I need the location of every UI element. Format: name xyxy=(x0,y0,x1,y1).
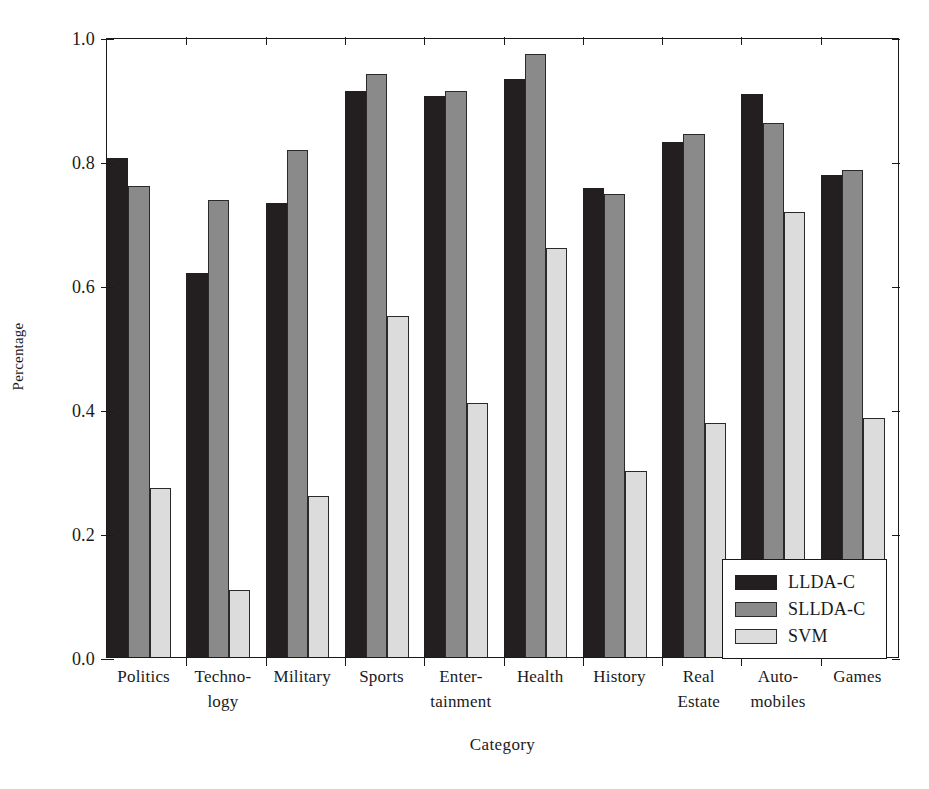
bar xyxy=(308,496,329,657)
bar xyxy=(662,142,683,657)
bar xyxy=(604,194,625,657)
bar xyxy=(287,150,308,657)
y-tick-mark xyxy=(101,535,114,536)
x-tick-label: Games xyxy=(797,664,917,689)
bar-group xyxy=(107,39,186,657)
y-axis-label: Percentage xyxy=(10,247,27,467)
bar xyxy=(525,54,546,657)
bar xyxy=(583,188,604,657)
y-tick-label: 1.0 xyxy=(72,29,95,50)
y-tick-label: 0.2 xyxy=(72,525,95,546)
bar xyxy=(424,96,445,657)
bar xyxy=(504,79,525,657)
bar xyxy=(387,316,408,657)
legend-item: LLDA-C xyxy=(723,569,886,596)
x-tick-mark-top xyxy=(821,37,822,45)
legend-item: SVM xyxy=(723,623,886,650)
bar xyxy=(445,91,466,657)
legend-label: LLDA-C xyxy=(788,572,855,593)
bar xyxy=(208,200,229,657)
legend-swatch xyxy=(735,602,777,617)
bar xyxy=(150,488,171,657)
x-tick-mark-top xyxy=(345,37,346,45)
bar xyxy=(345,91,366,657)
bar xyxy=(229,590,250,657)
bar xyxy=(546,248,567,657)
y-tick-mark-right xyxy=(892,659,900,660)
chart-legend: LLDA-CSLLDA-CSVM xyxy=(722,559,887,659)
x-tick-label-line: Games xyxy=(797,664,917,689)
bar-group xyxy=(186,39,265,657)
bar-group xyxy=(424,39,503,657)
y-tick-label: 0.6 xyxy=(72,277,95,298)
bar xyxy=(366,74,387,657)
bar xyxy=(625,471,646,657)
bar-group xyxy=(583,39,662,657)
legend-label: SVM xyxy=(788,626,828,647)
bar xyxy=(683,134,704,657)
y-tick-label: 0.4 xyxy=(72,401,95,422)
x-tick-mark-top xyxy=(266,37,267,45)
x-tick-label-line: tainment xyxy=(401,689,521,714)
bar xyxy=(107,158,128,657)
x-tick-mark-top xyxy=(186,37,187,45)
y-tick-mark-right xyxy=(892,535,900,536)
legend-swatch xyxy=(735,575,777,590)
x-tick-mark-top xyxy=(504,37,505,45)
bar xyxy=(467,403,488,657)
bar-chart-figure: Percentage 0.00.20.40.60.81.0 PoliticsTe… xyxy=(0,0,929,789)
y-tick-mark xyxy=(101,39,114,40)
bar xyxy=(186,273,207,657)
x-axis-label: Category xyxy=(106,735,899,755)
bar xyxy=(128,186,149,657)
bar-group xyxy=(266,39,345,657)
x-tick-mark-top xyxy=(741,37,742,45)
x-tick-label-line: mobiles xyxy=(718,689,838,714)
y-tick-mark xyxy=(101,287,114,288)
y-tick-mark xyxy=(101,659,114,660)
bar-group xyxy=(504,39,583,657)
bar xyxy=(266,203,287,657)
y-tick-mark-right xyxy=(892,411,900,412)
y-tick-label: 0.8 xyxy=(72,153,95,174)
x-tick-mark-top xyxy=(583,37,584,45)
legend-swatch xyxy=(735,629,777,644)
bar-group xyxy=(345,39,424,657)
x-tick-mark-top xyxy=(662,37,663,45)
y-tick-mark-right xyxy=(892,287,900,288)
x-tick-label-line: logy xyxy=(163,689,283,714)
legend-label: SLLDA-C xyxy=(788,599,865,620)
y-tick-mark-right xyxy=(892,163,900,164)
legend-item: SLLDA-C xyxy=(723,596,886,623)
y-tick-mark-right xyxy=(892,39,900,40)
x-tick-mark-top xyxy=(424,37,425,45)
y-tick-mark xyxy=(101,163,114,164)
y-tick-mark xyxy=(101,411,114,412)
